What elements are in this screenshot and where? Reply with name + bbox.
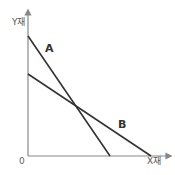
x-axis-label: X재 — [147, 157, 161, 166]
diagram-canvas: Y재 X재 0 A B — [0, 0, 175, 175]
diagram-svg — [0, 0, 175, 175]
line-a-label: A — [45, 43, 54, 54]
line-a — [28, 36, 110, 156]
line-b — [28, 74, 151, 156]
origin-label: 0 — [19, 157, 25, 166]
line-b-label: B — [118, 119, 126, 130]
y-axis-label: Y재 — [12, 18, 26, 27]
